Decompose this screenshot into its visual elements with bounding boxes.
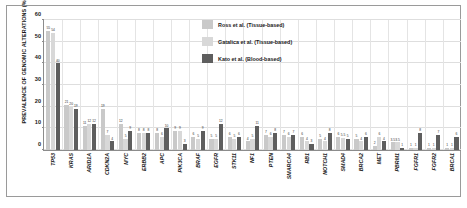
y-tick-label: 20	[35, 98, 41, 104]
x-tick-label: BRCA1	[449, 153, 455, 171]
bar: 1	[400, 148, 404, 150]
bar-group: 1259MYC	[117, 20, 135, 150]
bar: 9	[128, 131, 132, 151]
legend-item: Kato et al. (Blood-based)	[202, 54, 292, 63]
bar: 8	[146, 133, 150, 150]
bar-value-label: 1	[451, 144, 453, 147]
x-tick-label: TP53	[50, 153, 56, 166]
bar: 4	[305, 141, 309, 150]
bar-value-label: 5	[125, 135, 127, 138]
x-tick-label: SMAD4	[340, 153, 346, 172]
bar-group: 111212ARID1A	[80, 20, 98, 150]
x-tick-label: RB1	[304, 153, 310, 164]
bar-value-label: 8	[329, 129, 331, 132]
x-tick-label: MET	[376, 153, 382, 164]
bar-group: 116BRCA1	[443, 20, 461, 150]
bar-value-label: 6	[365, 133, 367, 136]
bar-value-label: 19	[74, 105, 78, 108]
bar-value-label: 7	[437, 131, 439, 134]
bar: 1	[432, 148, 436, 150]
bar-value-label: 5	[252, 135, 254, 138]
bar-value-label: 5.5	[341, 134, 346, 137]
x-tick-label: EGFR	[213, 153, 219, 168]
bar: 9	[201, 131, 205, 151]
bar-value-label: 3	[184, 140, 186, 143]
x-tick-label: FGFR2	[431, 153, 437, 170]
bar: 4	[110, 141, 114, 150]
bar-value-label: 55	[47, 27, 51, 30]
bar-value-label: 5	[233, 135, 235, 138]
bar-group: 8610APC	[153, 20, 171, 150]
bar: 19	[101, 109, 105, 150]
legend-label: Kato et al. (Blood-based)	[218, 56, 282, 62]
bar: 11	[83, 126, 87, 150]
bar-value-label: 5	[215, 135, 217, 138]
bar: 5	[346, 139, 350, 150]
bar: 1	[445, 148, 449, 150]
bar: 5	[123, 139, 127, 150]
bar-value-label: 6	[378, 133, 380, 136]
legend-swatch	[202, 20, 213, 29]
bar: 12	[92, 124, 96, 150]
bar-value-label: 1	[410, 144, 412, 147]
bar: 5.5	[341, 138, 345, 150]
bar: 6	[300, 137, 304, 150]
bar-group: 65.55SMAD4	[334, 20, 352, 150]
bar: 6	[191, 137, 195, 150]
bar: 2	[373, 146, 377, 150]
bar-value-label: 9	[174, 127, 176, 130]
y-tick-label: 60	[35, 11, 41, 17]
legend-swatch	[202, 37, 213, 46]
bar-value-label: 8	[419, 129, 421, 132]
bar: 6	[160, 137, 164, 150]
bar: 8	[155, 133, 159, 150]
bar-group: 1974CDKN2A	[98, 20, 116, 150]
bar: 19	[74, 109, 78, 150]
bar: 7	[105, 135, 109, 150]
bar: 12	[87, 124, 91, 150]
bar-value-label: 5	[197, 135, 199, 138]
bar: 5	[196, 139, 200, 150]
bar-value-label: 1	[428, 144, 430, 147]
bar-value-label: 3.5	[395, 139, 400, 142]
bar: 6	[364, 137, 368, 150]
bar-value-label: 6	[270, 133, 272, 136]
chart-legend: Ross et al. (Tissue-based)Gatalica et al…	[202, 20, 292, 63]
x-tick-label: NF1	[249, 153, 255, 163]
bar: 20	[69, 107, 73, 150]
bar: 40	[56, 63, 60, 150]
bar-value-label: 4	[383, 138, 385, 141]
bar-value-label: 4	[360, 138, 362, 141]
legend-item: Gatalica et al. (Tissue-based)	[202, 37, 292, 46]
bar: 11	[255, 126, 259, 150]
bar: 6	[377, 137, 381, 150]
bar-value-label: 6	[192, 133, 194, 136]
bar-value-label: 8	[138, 129, 140, 132]
x-tick-label: ERBB2	[141, 153, 147, 171]
bar: 5	[318, 139, 322, 150]
bar: 5	[250, 139, 254, 150]
legend-swatch	[202, 54, 213, 63]
bar: 6	[268, 137, 272, 150]
x-tick-label: BRCA2	[358, 153, 364, 171]
bar-value-label: 7	[292, 131, 294, 134]
bar-value-label: 4	[247, 138, 249, 141]
bar: 4	[382, 141, 386, 150]
bar-value-label: 8	[143, 129, 145, 132]
bar: 3.5	[395, 142, 399, 150]
bar-value-label: 6	[456, 133, 458, 136]
bar-value-label: 12	[87, 120, 91, 123]
y-axis-label: PREVALENCE OF GENOMIC ALTERATIONS (%)	[21, 0, 27, 131]
legend-label: Gatalica et al. (Tissue-based)	[218, 39, 292, 45]
bar-value-label: 5	[356, 135, 358, 138]
y-tick-label: 30	[35, 76, 41, 82]
bar: 1	[413, 148, 417, 150]
bar: 9	[178, 131, 182, 151]
x-tick-label: APC	[159, 153, 165, 164]
bar: 7	[291, 135, 295, 150]
bar-value-label: 9	[179, 127, 181, 130]
bar-value-label: 21	[65, 101, 69, 104]
bar: 8	[142, 133, 146, 150]
x-tick-label: NOTCH1	[322, 153, 328, 175]
bar: 8	[328, 133, 332, 150]
